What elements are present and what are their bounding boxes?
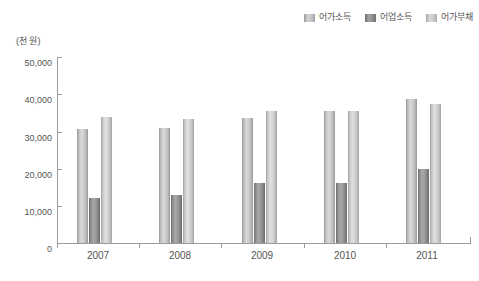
x-axis-label-2011: 2011 [397, 250, 457, 261]
y-tick-label-50000-wrap: 50,000 [8, 52, 52, 70]
y-tick-40000 [57, 94, 62, 95]
y-tick-label-50000: 50,000 [24, 58, 52, 68]
bar-debt-2007 [101, 117, 112, 243]
x-axis-label-2010: 2010 [315, 250, 375, 261]
x-tick-2007-2008 [139, 243, 140, 248]
bar-fishery-2008 [171, 195, 182, 243]
x-tick-2009-2010 [304, 243, 305, 248]
x-axis-label-2007: 2007 [68, 250, 128, 261]
y-tick-10000 [57, 206, 62, 207]
y-tick-label-30000: 30,000 [24, 133, 52, 143]
bar-income-2008 [159, 128, 170, 243]
bar-income-2011 [406, 99, 417, 243]
y-tick-label-10000: 10,000 [24, 207, 52, 217]
x-axis-label-2008: 2008 [150, 250, 210, 261]
y-tick-label-40000-wrap: 40,000 [8, 89, 52, 107]
x-axis-line [57, 243, 471, 244]
bar-fishery-2009 [254, 183, 265, 243]
bar-income-2007 [77, 129, 88, 243]
y-tick-label-20000-wrap: 20,000 [8, 164, 52, 182]
y-tick-label-20000: 20,000 [24, 170, 52, 180]
y-tick-20000 [57, 169, 62, 170]
y-tick-label-0-wrap: 0 [8, 238, 52, 256]
y-tick-label-0: 0 [47, 244, 52, 254]
bar-debt-2009 [266, 111, 277, 243]
bar-fishery-2010 [336, 183, 347, 243]
x-tick-2010-2011 [386, 243, 387, 248]
y-tick-label-40000: 40,000 [24, 95, 52, 105]
y-axis-line [57, 57, 58, 244]
x-tick-2008-2009 [221, 243, 222, 248]
bar-income-2010 [324, 111, 335, 243]
y-tick-label-30000-wrap: 30,000 [8, 127, 52, 145]
fishery-household-bar-chart: 어가소득 어업소득 어가부채 (천 원) 50,000 40,000 30,00… [0, 0, 479, 281]
plot-area: 50,000 40,000 30,000 20,000 10,000 0 200… [0, 0, 479, 281]
x-tick-start [57, 243, 58, 248]
bar-debt-2008 [183, 119, 194, 243]
x-axis-end-tick [470, 237, 471, 244]
bar-fishery-2007 [89, 198, 100, 243]
bar-debt-2010 [348, 111, 359, 243]
y-tick-30000 [57, 132, 62, 133]
y-tick-label-10000-wrap: 10,000 [8, 201, 52, 219]
bar-debt-2011 [430, 104, 441, 243]
bar-income-2009 [242, 118, 253, 243]
x-axis-label-2009: 2009 [232, 250, 292, 261]
y-tick-50000 [57, 57, 62, 58]
bar-fishery-2011 [418, 169, 429, 243]
